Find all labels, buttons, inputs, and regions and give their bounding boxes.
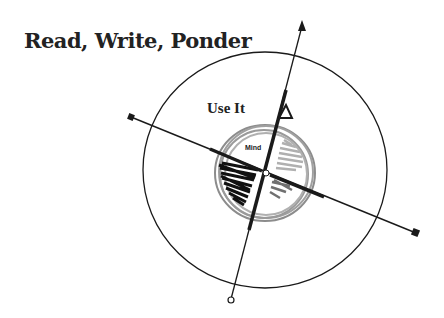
diagram-canvas [0, 0, 444, 318]
center-point [263, 170, 269, 176]
mind-label: Mind [245, 144, 261, 151]
square-endpoint-right [411, 228, 420, 237]
shade-dark [219, 163, 258, 205]
shade-light [276, 140, 303, 170]
use-it-label: Use It [207, 100, 245, 117]
square-endpoint-left [127, 113, 135, 121]
arrow-head-top [298, 20, 306, 31]
open-circle-endpoint [228, 297, 234, 303]
